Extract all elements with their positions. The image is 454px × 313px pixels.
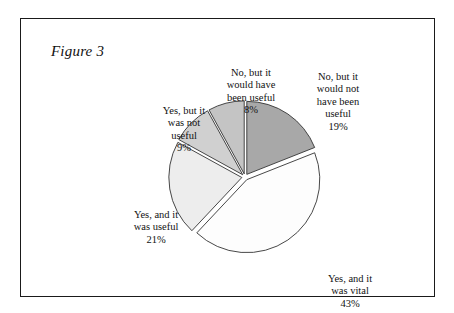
pie-label-yes-was-useful: Yes, and it was useful 21%: [112, 196, 200, 259]
pie-label-no-would-not-have-been-useful: No, but it would not have been useful 19…: [296, 58, 380, 146]
pie-label-percent: 43%: [308, 298, 392, 311]
pie-label-percent: 21%: [112, 234, 200, 247]
pie-label-percent: 9%: [142, 142, 226, 155]
pie-label-text: Yes, but it was not useful: [163, 105, 205, 141]
pie-label-yes-was-vital: Yes, and it was vital 43%: [308, 260, 392, 313]
pie-label-text: No, but it would not have been useful: [317, 71, 359, 120]
pie-label-percent: 8%: [206, 104, 296, 117]
pie-label-no-would-have-been-useful: No, but it would have been useful 8%: [206, 54, 296, 130]
pie-label-text: Yes, and it was vital: [328, 273, 372, 297]
pie-label-text: No, but it would have been useful: [227, 67, 276, 103]
pie-chart: No, but it would not have been useful 19…: [20, 18, 435, 297]
pie-label-percent: 19%: [296, 121, 380, 134]
pie-label-text: Yes, and it was useful: [134, 209, 179, 233]
